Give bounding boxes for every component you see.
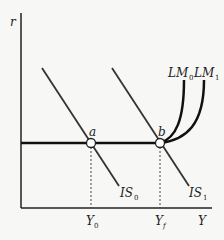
svg-text:LM: LM: [167, 66, 189, 80]
svg-text:IS: IS: [188, 186, 202, 200]
point-a-label: a: [89, 125, 96, 139]
islm-diagram: r Y a b LM 0 LM 1 IS 0: [0, 0, 224, 240]
point-a-marker: [87, 139, 96, 148]
lm1-label: LM 1: [193, 66, 219, 82]
svg-text:LM: LM: [193, 66, 215, 80]
is0-curve: [42, 68, 119, 186]
yf-tick-label: Y f: [155, 214, 167, 230]
svg-text:0: 0: [189, 74, 193, 82]
svg-text:IS: IS: [119, 186, 133, 200]
diagram-svg: r Y a b LM 0 LM 1 IS 0: [0, 0, 224, 240]
lm0-label: LM 0: [167, 66, 193, 82]
svg-text:0: 0: [134, 194, 138, 202]
svg-text:1: 1: [203, 194, 207, 202]
point-b-marker: [156, 139, 165, 148]
is0-label: IS 0: [119, 186, 138, 202]
y0-tick-label: Y 0: [86, 214, 98, 230]
svg-text:0: 0: [94, 222, 98, 230]
is1-label: IS 1: [188, 186, 207, 202]
svg-text:f: f: [162, 222, 167, 230]
y-axis-label: r: [10, 15, 17, 29]
x-axis-label: Y: [198, 214, 207, 228]
svg-text:1: 1: [215, 74, 219, 82]
point-b-label: b: [158, 125, 166, 139]
